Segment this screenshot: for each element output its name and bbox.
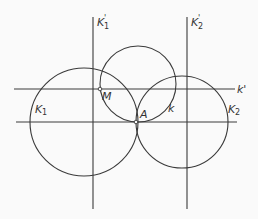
label-K2-sub: 2 — [235, 108, 240, 117]
label-K1-prime-mark: ' — [104, 14, 106, 23]
label-K2-prime-sub: 2 — [198, 22, 203, 31]
label-K2-prime-mark: ' — [198, 14, 200, 23]
label-M: M — [102, 90, 112, 103]
label-k-prime: k' — [237, 83, 246, 96]
label-K1-sub: 1 — [42, 108, 47, 117]
label-A: A — [139, 108, 148, 121]
label-K1-prime-sub: 1 — [104, 22, 109, 31]
point-A — [134, 120, 138, 124]
geometry-diagram: K 1 ' K 2 ' k' K 1 K 2 k M A — [0, 0, 258, 219]
label-k: k — [168, 102, 175, 115]
